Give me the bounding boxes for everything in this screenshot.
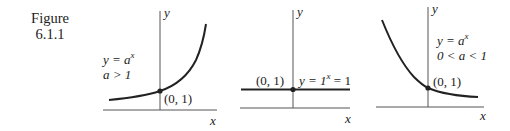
equation-exponent: x [464,31,469,41]
graph-decreasing-exponential: y x y = ax 0 < a < 1 (0, 1) [376,1,487,123]
equation-base: y = 1 [297,73,327,88]
y-axis-label: y [430,1,438,16]
point-label: (0, 1) [433,74,461,89]
graph-constant-function: y x (0, 1) y = 1x = 1 [240,4,351,126]
equation-label: y = 1x = 1 [297,71,351,88]
y-axis-label: y [295,4,303,19]
condition-label: a > 1 [103,67,131,82]
graph-increasing-exponential: y x y = ax a > 1 (0, 1) [101,5,217,128]
x-axis-label: x [479,108,486,123]
point-label: (0, 1) [164,91,192,106]
equation-base: y = a [435,33,465,48]
y-axis-label: y [162,5,170,20]
x-axis-label: x [209,113,216,128]
equation-label: y = ax [101,50,135,67]
point-label: (0, 1) [256,73,284,88]
figure-graphs: y x y = ax a > 1 (0, 1) y x (0, 1) y = 1… [0,0,510,131]
point-0-1 [425,85,430,90]
equation-suffix: = 1 [331,73,351,88]
point-0-1 [157,88,162,93]
equation-base: y = a [101,52,131,67]
equation-exponent: x [130,50,135,60]
equation-label: y = ax [435,31,469,48]
x-axis-label: x [344,111,351,126]
condition-label: 0 < a < 1 [437,48,487,63]
point-0-1 [290,87,295,92]
